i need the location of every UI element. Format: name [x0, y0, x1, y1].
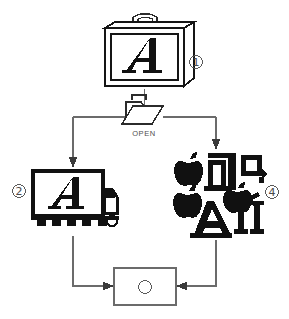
delivery-truck-with-letter-a-icon: 2 — [13, 171, 119, 226]
marker-1: 1 — [190, 56, 203, 69]
marker-1-text: 1 — [193, 56, 200, 69]
arrow-head-left-down — [69, 157, 78, 168]
arrow-head-right-down — [212, 139, 221, 150]
arrow-head-into-box-right — [176, 282, 187, 291]
apple-glyph-mid — [173, 185, 202, 218]
flow-diagram-canvas: 1 OPEN 2 — [0, 0, 289, 319]
edge-fonts-to-box — [186, 240, 216, 286]
marker-3-text: 4 — [269, 186, 276, 199]
open-folder-label: OPEN — [132, 129, 156, 138]
glyph-a-outline — [204, 153, 236, 191]
empty-rectangle-node — [114, 268, 176, 305]
glyph-q-outline — [241, 155, 268, 183]
font-characters-cluster-icon: 4 — [173, 152, 278, 238]
marker-2: 2 — [13, 185, 26, 198]
node-4-box — [114, 268, 176, 305]
briefcase-with-letter-a-icon: 1 — [105, 14, 202, 86]
marker-3: 4 — [266, 186, 279, 199]
arrow-head-into-box-left — [103, 282, 114, 291]
open-folder-icon: OPEN — [122, 95, 163, 138]
marker-2-text: 2 — [16, 185, 23, 198]
edge-truck-to-box — [73, 236, 104, 286]
apple-glyph-top — [174, 152, 203, 186]
